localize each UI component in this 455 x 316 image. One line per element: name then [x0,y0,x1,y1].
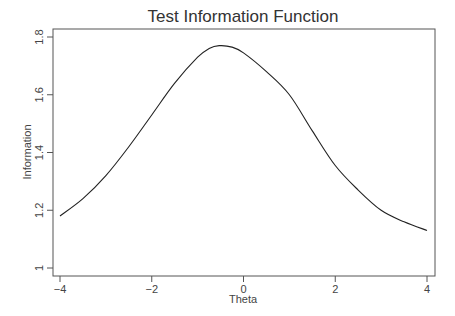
y-tick-label: 1.2 [33,203,45,218]
chart-title: Test Information Function [148,7,339,26]
y-tick-label: 1.4 [33,145,45,160]
y-tick-label: 1.6 [33,87,45,102]
y-tick-label: 1.8 [33,29,45,44]
plot-frame [53,29,435,276]
information-curve [60,46,427,231]
x-tick-label: −4 [54,283,67,295]
y-axis: 11.21.41.61.8 [33,29,53,271]
y-axis-label: Information [21,124,33,179]
chart-canvas: Test Information Function 11.21.41.61.8 … [0,0,455,316]
x-tick-label: 2 [332,283,338,295]
x-tick-label: −2 [145,283,158,295]
x-tick-label: 4 [424,283,430,295]
x-axis-label: Theta [229,293,258,305]
y-tick-label: 1 [33,265,45,271]
